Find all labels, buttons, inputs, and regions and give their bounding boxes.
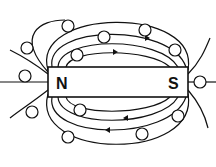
- compass-icon: [26, 106, 38, 118]
- magnet-south-label: S: [168, 75, 179, 92]
- magnet-north-label: N: [56, 75, 68, 92]
- compass-icon: [62, 20, 74, 32]
- compass-icon: [74, 104, 86, 116]
- compass-icon: [98, 31, 110, 43]
- compass-icon: [71, 49, 83, 61]
- compass-icon: [62, 131, 74, 143]
- compass-icon: [136, 128, 148, 140]
- field-diagram-svg: N S: [0, 0, 216, 167]
- compass-icon: [194, 76, 206, 88]
- compass-icon: [21, 42, 33, 54]
- bar-magnet: [48, 67, 188, 97]
- compass-icon: [172, 110, 184, 122]
- compass-icon: [169, 44, 181, 56]
- compass-icon: [19, 70, 31, 82]
- bar-magnet-field-diagram: N S: [0, 0, 216, 167]
- compass-icon: [139, 24, 151, 36]
